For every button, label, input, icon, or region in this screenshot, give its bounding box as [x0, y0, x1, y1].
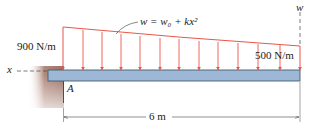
load-right-label: 500 N/m — [255, 49, 294, 61]
load-left-label: 900 N/m — [17, 40, 56, 52]
span-label: 6 m — [149, 110, 166, 122]
point-a-label: A — [67, 82, 74, 94]
load-equation-label: w = w₀ + kx² — [140, 15, 197, 27]
beam — [48, 70, 300, 81]
x-axis-label: x — [7, 63, 12, 75]
w-axis-label: w — [296, 1, 303, 13]
